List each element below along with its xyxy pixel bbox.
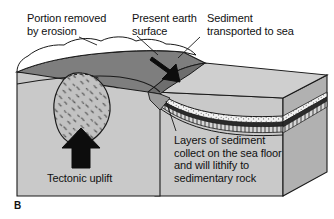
label-portion-removed-by-erosion: Portion removed by erosion bbox=[27, 12, 106, 37]
label-tectonic-uplift: Tectonic uplift bbox=[47, 172, 112, 185]
label-present-earth-surface: Present earth surface bbox=[132, 12, 197, 37]
panel-letter: B bbox=[14, 200, 21, 211]
label-sediment-transported-to-sea: Sediment transported to sea bbox=[207, 12, 294, 37]
label-seafloor-sediment-note: Layers of sediment collect on the sea fl… bbox=[174, 134, 282, 184]
figure-block-diagram: Portion removed by erosion Present earth… bbox=[0, 0, 334, 219]
